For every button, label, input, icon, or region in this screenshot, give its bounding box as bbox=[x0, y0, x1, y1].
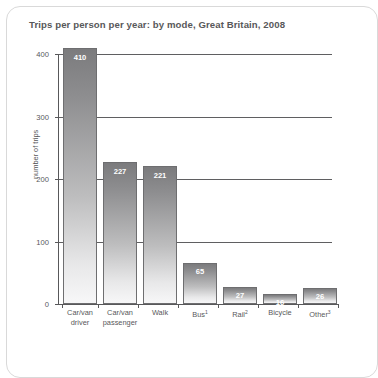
x-label-line1: Bicycle bbox=[268, 308, 291, 317]
bar-value-walk: 221 bbox=[144, 171, 176, 180]
bar-car-van-passenger[interactable]: 227 bbox=[103, 162, 137, 304]
x-axis-line bbox=[58, 304, 338, 305]
bar-value-bicycle: 16 bbox=[264, 298, 296, 307]
plot-area: 0 100 200 300 400 410 227 221 65 bbox=[59, 54, 332, 304]
y-tick-label-100: 100 bbox=[36, 237, 49, 246]
bar-value-car-van-driver: 410 bbox=[64, 53, 96, 62]
y-tick-label-200: 200 bbox=[36, 175, 49, 184]
x-label-footnote: 2 bbox=[245, 309, 248, 315]
gridline-300 bbox=[59, 117, 332, 118]
chart-card: Trips per person per year: by mode, Grea… bbox=[6, 6, 378, 378]
x-label-footnote: 1 bbox=[205, 309, 208, 315]
x-label-line1: Bus bbox=[192, 310, 205, 319]
bar-car-van-driver[interactable]: 410 bbox=[63, 48, 97, 304]
bar-bicycle[interactable]: 16 bbox=[263, 294, 297, 304]
x-label-line1: Car/van bbox=[67, 308, 93, 317]
chart-title: Trips per person per year: by mode, Grea… bbox=[29, 19, 285, 30]
y-tick-label-0: 0 bbox=[45, 300, 49, 309]
bar-rail[interactable]: 27 bbox=[223, 287, 257, 304]
y-tick-label-300: 300 bbox=[36, 112, 49, 121]
bar-value-other: 26 bbox=[304, 292, 336, 301]
bar-value-bus: 65 bbox=[184, 267, 216, 276]
x-label-line1: Car/van bbox=[107, 308, 133, 317]
y-tick-0: 0 bbox=[55, 304, 59, 305]
bar-value-car-van-passenger: 227 bbox=[104, 167, 136, 176]
x-label-line1: Other bbox=[309, 310, 327, 319]
gridline-200 bbox=[59, 179, 332, 180]
bar-other[interactable]: 26 bbox=[303, 288, 337, 304]
bar-value-rail: 27 bbox=[224, 291, 256, 300]
x-label-line2: passenger bbox=[103, 318, 138, 327]
x-label-line2: driver bbox=[71, 318, 89, 327]
bar-bus[interactable]: 65 bbox=[183, 263, 217, 304]
gridline-400 bbox=[59, 54, 332, 55]
x-label-line1: Walk bbox=[152, 308, 168, 317]
y-axis-title: number of trips bbox=[31, 130, 40, 179]
x-label-other: Other3 bbox=[295, 308, 345, 320]
y-tick-label-400: 400 bbox=[36, 50, 49, 59]
bar-walk[interactable]: 221 bbox=[143, 166, 177, 304]
x-label-footnote: 3 bbox=[328, 309, 331, 315]
x-label-line1: Rail bbox=[232, 310, 245, 319]
gridline-100 bbox=[59, 242, 332, 243]
